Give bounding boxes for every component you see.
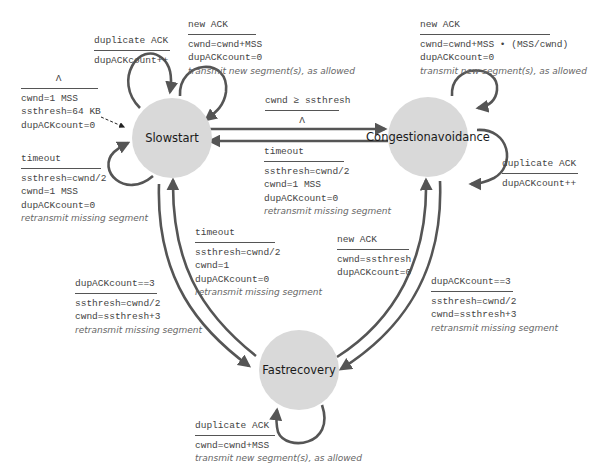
fr-dup-ack-event: duplicate ACK bbox=[195, 419, 275, 436]
label-ss-timeout: timeout ssthresh=cwnd/2 cwnd=1 MSS dupAC… bbox=[21, 152, 148, 226]
fr-timeout-event: timeout bbox=[195, 226, 275, 243]
ca-to-fr-action-1: ssthresh=cwnd/2 bbox=[431, 295, 558, 309]
fr-new-ack-action-2: dupACKcount=0 bbox=[337, 266, 411, 280]
label-ca-timeout: timeout ssthresh=cwnd/2 cwnd=1 MSS dupAC… bbox=[264, 145, 391, 219]
label-ca-to-fr: dupACKcount==3 ssthresh=cwnd/2 cwnd=ssth… bbox=[431, 275, 558, 335]
ss-new-ack-action-2: dupACKcount=0 bbox=[188, 51, 355, 65]
ss-to-ca-event: cwnd ≥ ssthresh bbox=[265, 94, 339, 111]
ss-dup-ack-event: duplicate ACK bbox=[94, 34, 170, 51]
ss-dup-ack-action-1: dupACKcount++ bbox=[94, 54, 170, 68]
label-fr-dup-ack: duplicate ACK cwnd=cwnd+MSS transmit new… bbox=[195, 419, 362, 466]
ca-timeout-action-1: ssthresh=cwnd/2 bbox=[264, 165, 391, 179]
state-ca-line1: Congestion bbox=[366, 130, 431, 144]
fr-dup-ack-action-1: cwnd=cwnd+MSS bbox=[195, 439, 362, 453]
ss-new-ack-action-1: cwnd=cwnd+MSS bbox=[188, 38, 355, 52]
label-fr-new-ack: new ACK cwnd=ssthresh dupACKcount=0 bbox=[337, 233, 411, 280]
state-ca-line2: avoidance bbox=[431, 130, 490, 144]
ca-new-ack-event: new ACK bbox=[420, 18, 550, 35]
ca-timeout-event: timeout bbox=[264, 145, 344, 162]
ss-to-fr-action-2: cwnd=ssthresh+3 bbox=[75, 310, 202, 324]
ss-to-fr-note: retransmit missing segment bbox=[75, 324, 202, 338]
tcp-congestion-fsm-diagram: Slowstart Congestionavoidance Fastrecove… bbox=[0, 0, 593, 474]
fr-new-ack-event: new ACK bbox=[337, 233, 409, 250]
label-fr-timeout: timeout ssthresh=cwnd/2 cwnd=1 dupACKcou… bbox=[195, 226, 322, 300]
init-action-3: dupACKcount=0 bbox=[21, 119, 101, 133]
ca-timeout-action-2: cwnd=1 MSS bbox=[264, 178, 391, 192]
ca-to-fr-event: dupACKcount==3 bbox=[431, 275, 513, 292]
label-ss-new-ack: new ACK cwnd=cwnd+MSS dupACKcount=0 tran… bbox=[188, 18, 355, 78]
fr-timeout-action-1: ssthresh=cwnd/2 bbox=[195, 246, 322, 260]
ca-new-ack-note: transmit new segment(s), as allowed bbox=[420, 65, 587, 79]
ca-timeout-action-3: dupACKcount=0 bbox=[264, 192, 391, 206]
ss-timeout-action-3: dupACKcount=0 bbox=[21, 199, 148, 213]
ss-timeout-note: retransmit missing segment bbox=[21, 212, 148, 226]
label-ss-dup-ack: duplicate ACK dupACKcount++ bbox=[94, 34, 170, 67]
init-action-2: ssthresh=64 KB bbox=[21, 105, 101, 119]
state-fr-line2: recovery bbox=[285, 363, 335, 377]
fr-timeout-note: retransmit missing segment bbox=[195, 286, 322, 300]
state-congestion-avoidance: Congestionavoidance bbox=[388, 97, 468, 177]
label-ss-to-fr: dupACKcount==3 ssthresh=cwnd/2 cwnd=ssth… bbox=[75, 277, 202, 337]
state-slow-start-line2: start bbox=[172, 131, 199, 145]
fr-new-ack-action-1: cwnd=ssthresh bbox=[337, 253, 411, 267]
label-ca-new-ack: new ACK cwnd=cwnd+MSS • (MSS/cwnd) dupAC… bbox=[420, 18, 587, 78]
label-ca-dup-ack: duplicate ACK dupACKcount++ bbox=[502, 157, 578, 190]
ca-to-fr-note: retransmit missing segment bbox=[431, 322, 558, 336]
state-fr-line1: Fast bbox=[262, 363, 285, 377]
label-ss-to-ca: cwnd ≥ ssthresh Λ bbox=[265, 94, 339, 127]
ss-to-fr-action-1: ssthresh=cwnd/2 bbox=[75, 297, 202, 311]
ca-to-fr-action-2: cwnd=ssthresh+3 bbox=[431, 308, 558, 322]
fr-timeout-action-3: dupACKcount=0 bbox=[195, 273, 322, 287]
fr-dup-ack-note: transmit new segment(s), as allowed bbox=[195, 452, 362, 466]
ss-new-ack-note: transmit new segment(s), as allowed bbox=[188, 65, 355, 79]
init-event: Λ bbox=[21, 72, 98, 89]
ca-dup-ack-action-1: dupACKcount++ bbox=[502, 177, 578, 191]
ca-timeout-note: retransmit missing segment bbox=[264, 205, 391, 219]
ss-to-ca-action-1: Λ bbox=[265, 114, 339, 128]
ss-to-fr-event: dupACKcount==3 bbox=[75, 277, 157, 294]
state-slow-start-line1: Slow bbox=[145, 131, 172, 145]
ss-timeout-action-2: cwnd=1 MSS bbox=[21, 185, 148, 199]
ss-new-ack-event: new ACK bbox=[188, 18, 256, 35]
ca-dup-ack-event: duplicate ACK bbox=[502, 157, 578, 174]
fr-timeout-action-2: cwnd=1 bbox=[195, 259, 322, 273]
ca-new-ack-action-1: cwnd=cwnd+MSS • (MSS/cwnd) bbox=[420, 38, 587, 52]
ca-new-ack-action-2: dupACKcount=0 bbox=[420, 51, 587, 65]
state-fast-recovery: Fastrecovery bbox=[259, 330, 339, 410]
initial-state-arrow bbox=[101, 117, 124, 127]
init-action-1: cwnd=1 MSS bbox=[21, 92, 101, 106]
label-init: Λ cwnd=1 MSS ssthresh=64 KB dupACKcount=… bbox=[21, 72, 101, 132]
ss-timeout-action-1: ssthresh=cwnd/2 bbox=[21, 172, 148, 186]
ss-timeout-event: timeout bbox=[21, 152, 101, 169]
